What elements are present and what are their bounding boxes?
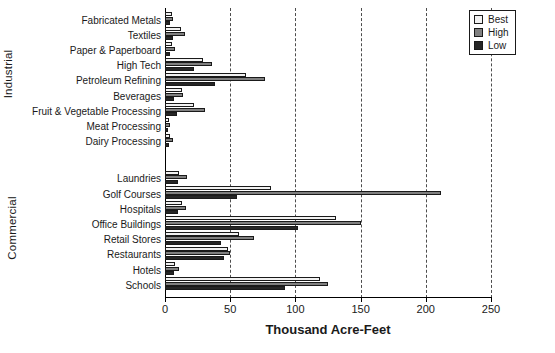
bar-best xyxy=(165,171,179,175)
x-tick-mark-0 xyxy=(165,297,166,302)
category-row: Dairy Processing xyxy=(165,134,491,149)
bar-low xyxy=(165,52,170,56)
legend: BestHighLow xyxy=(469,10,516,55)
bar-low xyxy=(165,67,194,71)
category-row: Fruit & Vegetable Processing xyxy=(165,103,491,118)
category-label: Restaurants xyxy=(107,249,161,260)
x-tick-mark-100 xyxy=(295,297,296,302)
bar-high xyxy=(165,62,212,66)
x-tick-label-200: 200 xyxy=(417,303,435,315)
category-label: Paper & Paperboard xyxy=(70,44,161,55)
bar-high xyxy=(165,108,205,112)
category-label: Hospitals xyxy=(120,203,161,214)
legend-label: Best xyxy=(488,14,508,25)
x-tick-label-150: 150 xyxy=(351,303,369,315)
bar-high xyxy=(165,138,173,142)
bar-low xyxy=(165,97,174,101)
category-label: High Tech xyxy=(117,60,161,71)
bar-low xyxy=(165,21,170,25)
category-row: Office Buildings xyxy=(165,216,491,231)
bar-best xyxy=(165,118,169,122)
bar-high xyxy=(165,251,230,255)
bar-best xyxy=(165,232,239,236)
bar-high xyxy=(165,221,361,225)
bars-container: Fabricated MetalsTextilesPaper & Paperbo… xyxy=(165,8,491,298)
legend-swatch-high xyxy=(474,28,483,37)
bar-best xyxy=(165,27,181,31)
category-label: Dairy Processing xyxy=(85,136,161,147)
bar-low xyxy=(165,271,174,275)
x-axis-line xyxy=(165,297,491,298)
bar-best xyxy=(165,42,172,46)
bar-high xyxy=(165,17,173,21)
category-row: Paper & Paperboard xyxy=(165,42,491,57)
category-label: Textiles xyxy=(128,29,161,40)
category-label: Meat Processing xyxy=(87,120,161,131)
x-tick-label-50: 50 xyxy=(224,303,236,315)
x-tick-mark-250 xyxy=(491,297,492,302)
bar-best xyxy=(165,73,246,77)
bar-high xyxy=(165,77,265,81)
category-row: Restaurants xyxy=(165,247,491,262)
bar-low xyxy=(165,241,221,245)
group-axis-label-industrial: Industrial xyxy=(2,4,14,144)
category-label: Fruit & Vegetable Processing xyxy=(32,105,161,116)
category-row: Schools xyxy=(165,277,491,292)
bar-high xyxy=(165,123,170,127)
bar-low xyxy=(165,82,215,86)
legend-swatch-low xyxy=(474,41,483,50)
category-row: Hospitals xyxy=(165,201,491,216)
bar-low xyxy=(165,256,224,260)
category-row: Retail Stores xyxy=(165,232,491,247)
bar-low xyxy=(165,210,178,214)
bar-best xyxy=(165,186,271,190)
bar-high xyxy=(165,191,441,195)
category-label: Retail Stores xyxy=(104,234,161,245)
bar-low xyxy=(165,128,168,132)
category-row: Beverages xyxy=(165,88,491,103)
category-row: Laundries xyxy=(165,171,491,186)
category-label: Laundries xyxy=(117,173,161,184)
x-tick-label-250: 250 xyxy=(482,303,500,315)
bar-chart: Industrial Commercial Fabricated MetalsT… xyxy=(0,0,555,353)
bar-low xyxy=(165,143,169,147)
category-label: Fabricated Metals xyxy=(82,14,161,25)
category-row: Fabricated Metals xyxy=(165,12,491,27)
category-label: Schools xyxy=(125,279,161,290)
x-tick-mark-50 xyxy=(230,297,231,302)
bar-high xyxy=(165,175,187,179)
bar-low xyxy=(165,226,298,230)
legend-item-low[interactable]: Low xyxy=(474,40,509,51)
bar-low xyxy=(165,195,237,199)
category-row: High Tech xyxy=(165,58,491,73)
bar-best xyxy=(165,277,320,281)
bar-best xyxy=(165,134,170,138)
bar-best xyxy=(165,58,203,62)
bar-high xyxy=(165,32,185,36)
category-row: Petroleum Refining xyxy=(165,73,491,88)
bar-best xyxy=(165,88,182,92)
legend-label: Low xyxy=(488,40,506,51)
legend-item-high[interactable]: High xyxy=(474,27,509,38)
category-label: Office Buildings xyxy=(92,218,161,229)
category-label: Hotels xyxy=(133,264,161,275)
bar-high xyxy=(165,267,179,271)
group-axis-label-commercial: Commercial xyxy=(6,158,18,298)
legend-swatch-best xyxy=(474,15,483,24)
legend-label: High xyxy=(488,27,509,38)
category-row: Meat Processing xyxy=(165,118,491,133)
bar-best xyxy=(165,262,175,266)
legend-item-best[interactable]: Best xyxy=(474,14,509,25)
x-tick-mark-200 xyxy=(426,297,427,302)
bar-high xyxy=(165,206,186,210)
category-label: Beverages xyxy=(113,90,161,101)
bar-best xyxy=(165,247,228,251)
x-tick-mark-150 xyxy=(361,297,362,302)
bar-low xyxy=(165,36,173,40)
x-tick-label-0: 0 xyxy=(162,303,168,315)
category-row: Golf Courses xyxy=(165,186,491,201)
category-row: Hotels xyxy=(165,262,491,277)
bar-high xyxy=(165,93,183,97)
bar-low xyxy=(165,112,177,116)
bar-best xyxy=(165,103,194,107)
